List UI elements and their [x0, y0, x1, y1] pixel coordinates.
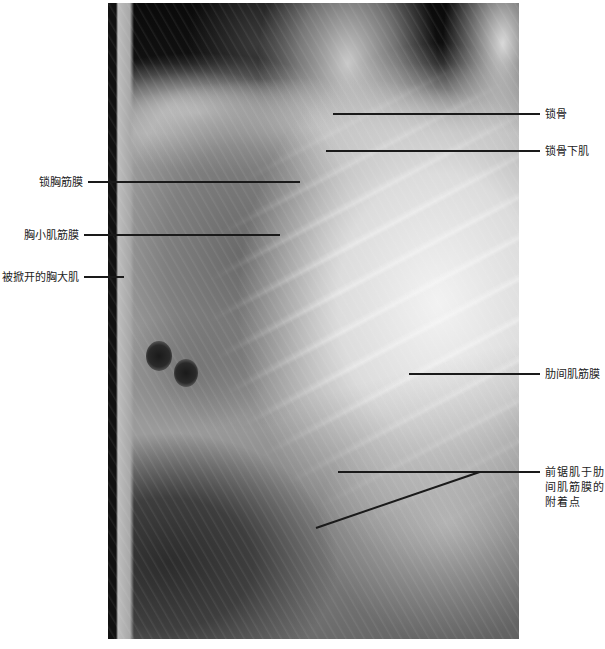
label-intercostal-fascia: 肋间肌筋膜 — [545, 367, 600, 382]
leader-line-intercostal-fascia — [409, 373, 540, 375]
label-reflected-pectoralis-major: 被掀开的胸大肌 — [2, 270, 79, 285]
photo-fiber-texture — [108, 3, 519, 639]
leader-line-subclavius — [326, 150, 540, 152]
photo-vessel-opening — [146, 341, 172, 371]
leader-line-pectoralis-major — [84, 276, 124, 278]
label-clavipectoral-fascia: 锁胸筋膜 — [39, 175, 83, 190]
photo-vessel-opening — [174, 359, 198, 387]
leader-line-serratus-attachment — [338, 471, 540, 473]
anatomy-photo — [108, 3, 519, 639]
leader-line-pectoralis-minor-fascia — [84, 234, 280, 236]
label-clavicle: 锁骨 — [545, 107, 567, 122]
label-pectoralis-minor-fascia: 胸小肌筋膜 — [24, 228, 79, 243]
leader-line-clavicle — [333, 113, 540, 115]
label-serratus-anterior-attachment: 前锯肌于肋间肌筋膜的附着点 — [545, 465, 605, 510]
leader-line-clavipectoral-fascia — [88, 181, 300, 183]
label-subclavius: 锁骨下肌 — [545, 144, 589, 159]
